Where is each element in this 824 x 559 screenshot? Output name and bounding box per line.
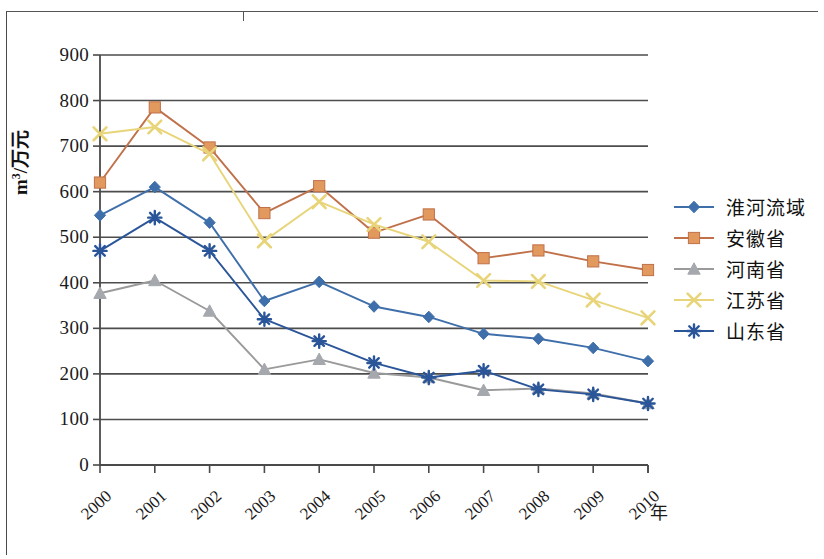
series-line <box>100 281 648 404</box>
legend-label: 河南省 <box>726 255 786 282</box>
data-point-triangle <box>149 274 161 285</box>
data-point-diamond <box>423 311 434 323</box>
legend-marker-diamond-icon <box>672 198 716 216</box>
legend-key-swatch <box>672 260 716 278</box>
data-point-square <box>314 181 325 192</box>
y-axis-tick-label: 800 <box>5 91 89 110</box>
data-point-square <box>688 232 699 243</box>
data-point-cross <box>587 294 600 307</box>
data-point-triangle <box>203 305 215 316</box>
series-2 <box>94 102 653 276</box>
series-3 <box>94 274 654 408</box>
data-point-diamond <box>314 276 325 288</box>
y-axis-tick-label: 500 <box>5 227 89 246</box>
data-point-diamond <box>533 333 544 345</box>
data-point-square <box>478 253 489 264</box>
legend-label: 安徽省 <box>726 224 786 251</box>
data-point-asterisk <box>148 211 161 224</box>
data-point-asterisk <box>203 244 216 257</box>
legend-key-swatch <box>672 198 716 216</box>
series-line <box>100 127 648 318</box>
legend-marker-cross-icon <box>672 291 716 309</box>
data-point-triangle <box>313 353 325 364</box>
data-point-diamond <box>688 201 699 213</box>
data-point-square <box>642 264 653 275</box>
data-point-square <box>588 256 599 267</box>
data-point-asterisk <box>313 334 326 347</box>
legend-label: 淮河流域 <box>726 193 806 220</box>
legend-item-3[interactable]: 河南省 <box>672 253 822 284</box>
legend-key-swatch <box>672 291 716 309</box>
legend-label: 江苏省 <box>726 286 786 313</box>
y-axis-tick-label: 0 <box>5 455 89 474</box>
series-line <box>100 107 648 270</box>
data-point-asterisk <box>367 356 380 369</box>
data-point-diamond <box>94 210 105 222</box>
legend-marker-square-icon <box>672 229 716 247</box>
data-point-asterisk <box>93 244 106 257</box>
axes-lines <box>93 55 648 473</box>
data-point-asterisk <box>587 388 600 401</box>
data-point-cross <box>313 195 326 208</box>
legend-marker-asterisk-icon <box>672 322 716 340</box>
data-point-diamond <box>588 342 599 354</box>
data-point-square <box>533 245 544 256</box>
y-axis-tick-label: 600 <box>5 182 89 201</box>
y-axis-tick-label: 300 <box>5 318 89 337</box>
data-point-diamond <box>478 328 489 340</box>
series-1 <box>94 181 653 367</box>
legend-key-swatch <box>672 229 716 247</box>
data-point-square <box>94 177 105 188</box>
legend-item-4[interactable]: 江苏省 <box>672 284 822 315</box>
line-chart-figure: m3/万元 年 0100200300400500600700800900 200… <box>0 0 824 559</box>
legend-key-swatch <box>672 322 716 340</box>
data-point-asterisk <box>477 364 490 377</box>
data-point-cross <box>642 311 655 324</box>
gridlines <box>100 55 648 465</box>
data-point-asterisk <box>641 397 654 410</box>
legend-item-1[interactable]: 淮河流域 <box>672 191 822 222</box>
legend-marker-triangle-icon <box>672 260 716 278</box>
data-point-asterisk <box>532 383 545 396</box>
data-point-diamond <box>368 301 379 313</box>
data-point-asterisk <box>687 324 700 337</box>
data-point-diamond <box>642 355 653 367</box>
y-axis-tick-label: 900 <box>5 45 89 64</box>
data-point-square <box>149 102 160 113</box>
data-point-square <box>259 207 270 218</box>
y-axis-tick-label: 700 <box>5 136 89 155</box>
data-point-asterisk <box>258 313 271 326</box>
data-point-square <box>423 209 434 220</box>
series-line <box>100 187 648 361</box>
y-axis-tick-label: 400 <box>5 273 89 292</box>
y-axis-tick-label: 100 <box>5 409 89 428</box>
legend-label: 山东省 <box>726 317 786 344</box>
legend-item-5[interactable]: 山东省 <box>672 315 822 346</box>
y-axis-tick-label: 200 <box>5 364 89 383</box>
data-point-asterisk <box>422 371 435 384</box>
chart-legend: 淮河流域安徽省河南省江苏省山东省 <box>672 191 822 346</box>
data-point-cross <box>258 234 271 247</box>
legend-item-2[interactable]: 安徽省 <box>672 222 822 253</box>
